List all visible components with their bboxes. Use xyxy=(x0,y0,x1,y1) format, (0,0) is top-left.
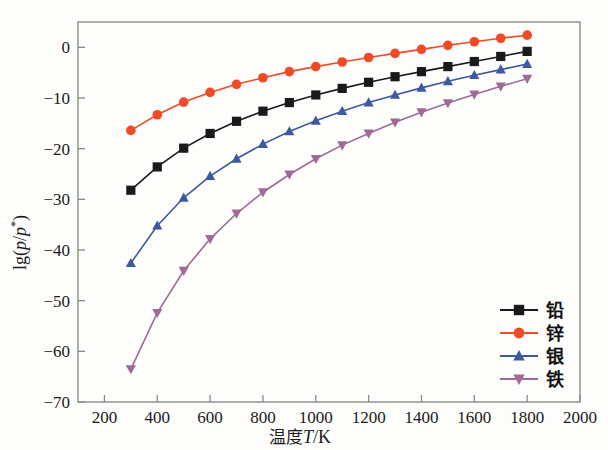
data-point xyxy=(390,72,399,81)
legend-marker-铅 xyxy=(514,305,524,315)
data-point xyxy=(152,110,162,120)
data-point xyxy=(258,188,268,197)
y-tick-label--60: −60 xyxy=(43,342,70,361)
x-axis-ticks xyxy=(104,395,580,402)
x-tick-label-600: 600 xyxy=(197,408,223,427)
legend-label-铅: 铅 xyxy=(546,300,564,321)
series-铁 xyxy=(126,75,532,375)
x-tick-label-1400: 1400 xyxy=(404,408,438,427)
y-axis-tick-labels: 0−10−20−30−40−50−60−70 xyxy=(43,38,70,412)
data-point xyxy=(311,62,321,72)
data-series-group xyxy=(126,30,532,374)
data-point xyxy=(285,67,295,77)
series-line-铅 xyxy=(131,51,527,190)
data-point xyxy=(152,309,162,318)
series-锌 xyxy=(126,30,532,135)
legend-label-锌: 锌 xyxy=(546,323,564,344)
x-tick-label-1200: 1200 xyxy=(352,408,386,427)
data-point xyxy=(232,117,241,126)
x-tick-label-2000: 2000 xyxy=(563,408,597,427)
x-tick-label-1800: 1800 xyxy=(510,408,544,427)
legend-item-铁[interactable]: 铁 xyxy=(500,369,564,390)
chart-page: 200400600800100012001400160018002000 0−1… xyxy=(0,0,608,450)
x-axis-title-text: 温度T/K xyxy=(269,427,331,447)
y-tick-label--10: −10 xyxy=(43,89,70,108)
data-point xyxy=(205,88,215,98)
vapor-pressure-chart: 200400600800100012001400160018002000 0−1… xyxy=(0,0,608,450)
data-point xyxy=(496,33,506,43)
legend-item-锌[interactable]: 锌 xyxy=(500,323,564,344)
data-point xyxy=(258,139,268,148)
data-point xyxy=(470,57,479,66)
data-point xyxy=(179,97,189,107)
data-point xyxy=(285,98,294,107)
data-point xyxy=(206,129,215,138)
x-tick-label-800: 800 xyxy=(250,408,276,427)
x-tick-label-400: 400 xyxy=(145,408,171,427)
y-axis-ticks xyxy=(78,47,85,402)
data-point xyxy=(522,30,532,40)
y-tick-label--20: −20 xyxy=(43,140,70,159)
data-point xyxy=(338,84,347,93)
y-tick-label--30: −30 xyxy=(43,190,70,209)
series-line-银 xyxy=(131,64,527,263)
data-point xyxy=(232,79,242,89)
data-point xyxy=(337,141,347,150)
x-tick-label-1600: 1600 xyxy=(457,408,491,427)
series-line-铁 xyxy=(131,79,527,369)
y-tick-label--70: −70 xyxy=(43,393,70,412)
legend-item-银[interactable]: 银 xyxy=(500,346,565,367)
data-point xyxy=(126,186,135,195)
data-point xyxy=(522,59,532,68)
series-银 xyxy=(126,59,532,267)
legend-marker-锌 xyxy=(514,328,525,339)
data-point xyxy=(231,154,241,163)
x-axis-tick-labels: 200400600800100012001400160018002000 xyxy=(92,408,597,427)
y-tick-label--50: −50 xyxy=(43,292,70,311)
data-point xyxy=(390,49,400,59)
data-point xyxy=(364,53,374,63)
data-point xyxy=(523,47,532,56)
data-point xyxy=(258,107,267,116)
x-axis-title: 温度T/K xyxy=(269,427,331,447)
data-point xyxy=(126,126,136,136)
legend-label-银: 银 xyxy=(546,346,565,367)
data-point xyxy=(337,57,347,67)
data-point xyxy=(126,365,136,374)
data-point xyxy=(417,45,427,55)
data-point xyxy=(284,171,294,180)
data-point xyxy=(311,155,321,164)
data-point xyxy=(364,78,373,87)
data-point xyxy=(364,130,374,139)
y-tick-label--40: −40 xyxy=(43,241,70,260)
legend-label-铁: 铁 xyxy=(546,369,564,390)
data-point xyxy=(205,171,215,180)
data-point xyxy=(153,162,162,171)
data-point xyxy=(179,267,189,276)
y-axis-title-text: lg(p/p*) xyxy=(8,215,31,270)
series-铅 xyxy=(126,47,532,195)
data-point xyxy=(417,67,426,76)
data-point xyxy=(311,90,320,99)
data-point xyxy=(179,144,188,153)
data-point xyxy=(443,62,452,71)
data-point xyxy=(443,40,453,50)
data-point xyxy=(496,52,505,61)
data-point xyxy=(469,37,479,47)
y-axis-title: lg(p/p*) xyxy=(8,215,31,270)
legend-item-铅[interactable]: 铅 xyxy=(500,300,564,321)
x-tick-label-1000: 1000 xyxy=(299,408,333,427)
chart-legend: 铅锌银铁 xyxy=(500,300,565,390)
plot-frame xyxy=(78,22,580,402)
data-point xyxy=(258,73,268,83)
x-tick-label-200: 200 xyxy=(92,408,118,427)
y-tick-label-0: 0 xyxy=(62,38,71,57)
